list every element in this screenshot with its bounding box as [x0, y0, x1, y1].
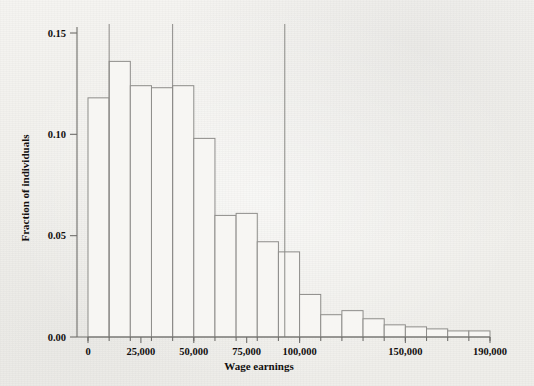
y-axis-label: Fraction of individuals	[19, 134, 31, 242]
x-tick-label: 25,000	[126, 346, 155, 357]
histogram-bar	[321, 315, 342, 337]
y-axis-ticks: 0.000.050.100.15	[48, 28, 77, 343]
y-tick-label: 0.10	[48, 129, 66, 140]
x-axis-label: Wage earnings	[224, 360, 294, 372]
histogram-bar	[363, 319, 384, 337]
y-tick-label: 0.00	[48, 332, 66, 343]
histogram-bar	[342, 311, 363, 337]
y-tick-label: 0.15	[48, 28, 66, 39]
histogram-bar	[236, 213, 257, 337]
x-tick-label: 0	[85, 346, 90, 357]
histogram-bar	[151, 88, 172, 337]
histogram-bar	[109, 61, 130, 337]
histogram-bar	[278, 252, 299, 337]
x-tick-label: 75,000	[232, 346, 261, 357]
x-tick-label: 150,000	[388, 346, 422, 357]
histogram-bar	[88, 98, 109, 337]
y-tick-label: 0.05	[48, 230, 66, 241]
histogram-bar	[427, 329, 448, 337]
bar-series	[88, 61, 490, 337]
histogram-bar	[448, 331, 469, 337]
histogram-bar	[130, 86, 151, 337]
histogram-bar	[257, 242, 278, 337]
chart-svg: 025,00050,00075,000100,000150,000190,000…	[0, 0, 534, 386]
histogram-bar	[405, 327, 426, 337]
histogram-chart: 025,00050,00075,000100,000150,000190,000…	[0, 0, 534, 386]
histogram-bar	[384, 325, 405, 337]
histogram-bar	[173, 86, 194, 337]
histogram-bar	[194, 138, 215, 337]
histogram-bar	[300, 294, 321, 337]
x-axis-ticks: 025,00050,00075,000100,000150,000190,000	[85, 337, 507, 357]
x-tick-label: 100,000	[283, 346, 317, 357]
histogram-bar	[469, 331, 490, 337]
x-tick-label: 50,000	[179, 346, 208, 357]
x-tick-label: 190,000	[473, 346, 507, 357]
histogram-bar	[215, 215, 236, 337]
